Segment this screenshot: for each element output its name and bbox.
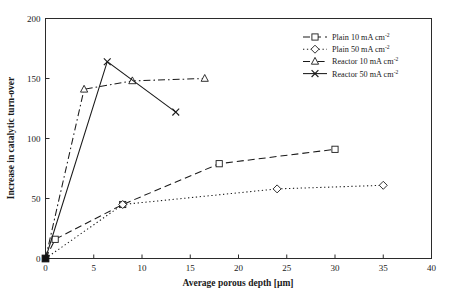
x-axis-tick-labels: 0510152025303540 (43, 263, 436, 273)
data-series-layer (46, 58, 388, 258)
y-tick-label: 200 (27, 14, 41, 24)
y-axis-ticks (46, 19, 50, 259)
chart-legend: Plain 10 mA cm-2Plain 50 mA cm-2Reactor … (303, 32, 398, 79)
legend-entry-1[interactable]: Plain 50 mA cm-2 (303, 44, 390, 54)
data-point-square (216, 161, 222, 167)
series-3 (46, 58, 180, 258)
data-point-square (312, 34, 318, 40)
x-axis-ticks (46, 255, 432, 259)
plot-frame (46, 19, 432, 259)
legend-label: Plain 50 mA cm-2 (332, 44, 390, 54)
legend-entry-3[interactable]: Reactor 50 mA cm-2 (303, 69, 398, 79)
x-tick-label: 35 (379, 263, 389, 273)
legend-entry-2[interactable]: Reactor 10 mA cm-2 (303, 56, 398, 66)
y-axis-tick-labels: 050100150200 (27, 14, 41, 264)
data-point-diamond (273, 185, 281, 193)
series-line (46, 62, 176, 259)
series-0 (46, 146, 339, 258)
data-point-square (52, 236, 58, 242)
y-tick-label: 50 (32, 194, 42, 204)
data-point-square (332, 146, 338, 152)
y-axis-title: Increase in catalytic turn-over (6, 76, 16, 199)
origin-filled-square-marker (42, 255, 49, 262)
legend-label: Plain 10 mA cm-2 (332, 32, 390, 42)
data-point-triangle (311, 57, 318, 64)
x-tick-label: 0 (43, 263, 48, 273)
data-point-diamond (311, 45, 319, 53)
legend-label: Reactor 50 mA cm-2 (332, 69, 398, 79)
chart-canvas: 0510152025303540 050100150200 Average po… (0, 0, 453, 296)
data-point-cross (172, 109, 179, 116)
series-1 (46, 181, 388, 258)
series-line (46, 149, 336, 258)
data-point-cross (104, 58, 111, 65)
x-tick-label: 15 (186, 263, 196, 273)
x-tick-label: 40 (427, 263, 437, 273)
legend-label: Reactor 10 mA cm-2 (332, 56, 398, 66)
legend-entry-0[interactable]: Plain 10 mA cm-2 (303, 32, 390, 42)
x-tick-label: 25 (282, 263, 292, 273)
x-tick-label: 5 (92, 263, 97, 273)
x-axis-title: Average porous depth [µm] (183, 278, 294, 288)
x-tick-label: 10 (138, 263, 148, 273)
origin-marker (42, 255, 49, 262)
y-tick-label: 100 (27, 134, 41, 144)
data-point-triangle (201, 75, 208, 82)
y-tick-label: 0 (36, 254, 41, 264)
x-tick-label: 20 (234, 263, 244, 273)
series-2 (46, 75, 209, 259)
data-point-diamond (379, 181, 387, 189)
y-tick-label: 150 (27, 74, 41, 84)
x-tick-label: 30 (331, 263, 341, 273)
chart-figure: 0510152025303540 050100150200 Average po… (0, 0, 453, 296)
series-line (46, 185, 384, 258)
